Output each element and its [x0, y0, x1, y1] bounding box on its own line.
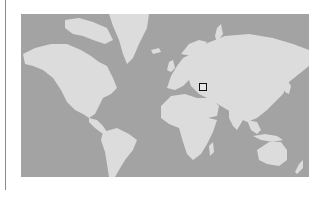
landmass-iceland	[151, 48, 161, 54]
landmass-greenland	[109, 14, 149, 64]
landmass-central-america	[89, 118, 107, 134]
landmass-indonesia	[253, 134, 283, 142]
landmass-arctic-islands	[65, 18, 113, 44]
world-map-graphic	[21, 14, 309, 177]
landmass-north-america	[23, 44, 117, 118]
landmass-south-america	[101, 128, 137, 177]
landmass-southeast-asia	[247, 120, 261, 134]
world-map[interactable]	[21, 14, 309, 177]
landmass-india	[229, 110, 243, 130]
landmass-new-zealand	[295, 160, 303, 174]
landmass-madagascar	[209, 142, 214, 156]
left-divider-line	[5, 0, 6, 190]
landmass-australia	[257, 142, 287, 166]
location-marker-square-icon[interactable]	[199, 83, 207, 91]
landmass-british-isles	[167, 60, 175, 72]
